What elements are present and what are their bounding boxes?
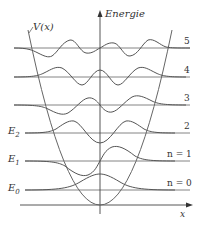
diagram-canvas (0, 0, 204, 228)
e2-subscript: 2 (15, 131, 19, 139)
y-axis (98, 10, 103, 214)
e0-subscript: 0 (15, 188, 19, 196)
harmonic-oscillator-diagram: Energie x V(x) E2 E1 E0 5 4 3 2 n = 1 n … (0, 0, 204, 228)
y-axis-arrow-icon (98, 10, 103, 17)
wavefunctions (14, 40, 190, 190)
potential-label-arg: (x) (40, 21, 53, 32)
x-axis-arrow-icon (186, 203, 193, 208)
energy-label-e2: E2 (8, 126, 20, 139)
energy-label-e0: E0 (8, 183, 20, 196)
energy-axis-label: Energie (105, 9, 145, 19)
level-label-1: n = 1 (167, 150, 192, 159)
x-axis-label: x (180, 210, 185, 219)
energy-label-e1: E1 (8, 154, 20, 167)
e1-subscript: 1 (15, 159, 19, 167)
level-label-0: n = 0 (167, 179, 192, 188)
level-label-2: 2 (184, 122, 190, 131)
potential-label: V(x) (33, 22, 54, 32)
level-label-4: 4 (184, 66, 190, 75)
level-label-5: 5 (184, 37, 190, 46)
level-label-3: 3 (184, 94, 190, 103)
